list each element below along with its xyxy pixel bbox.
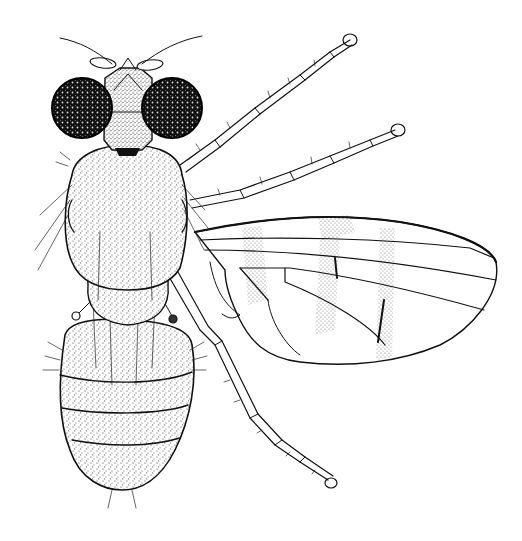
foreleg — [180, 34, 357, 172]
fly-illustration: Fly (Diptera), dorsal view, pen-and-ink … — [0, 0, 522, 541]
wing — [195, 215, 497, 364]
abdomen — [43, 300, 207, 508]
midleg — [190, 124, 405, 208]
left-compound-eye — [52, 78, 112, 138]
antennae — [60, 36, 202, 72]
right-compound-eye — [142, 78, 202, 138]
thorax — [35, 145, 208, 300]
